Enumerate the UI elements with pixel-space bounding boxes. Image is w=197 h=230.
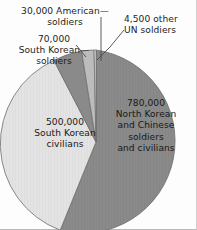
chart-frame: 30,000 American— soldiers 70,000 South K… bbox=[0, 0, 197, 230]
callout-label-south-korean-soldiers: 70,000 South Korean— soldiers bbox=[2, 34, 106, 68]
slice-label-south-korean-civilians: 500,000 South Korean civilians bbox=[22, 117, 108, 151]
leader-line-un bbox=[110, 30, 124, 47]
callout-label-other-un-soldiers: 4,500 other UN soldiers bbox=[124, 14, 196, 36]
slice-label-north-korean-chinese: 780,000 North Korean and Chinese soldier… bbox=[104, 98, 188, 154]
callout-label-american-soldiers: 30,000 American— soldiers bbox=[6, 6, 124, 28]
